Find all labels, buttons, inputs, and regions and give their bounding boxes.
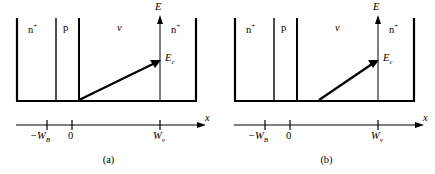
region-n-plus-right-label: n+: [389, 23, 398, 35]
region-nu-label: ν: [335, 23, 340, 34]
energy-axis-arrowhead: [375, 15, 381, 24]
region-p-label: p: [281, 23, 286, 34]
x-axis-label: x: [205, 113, 210, 124]
tick-label-minus-wb: −WB: [248, 131, 268, 144]
panel-a: n+ p ν n+ E x Ec −WB 0 Wν (a): [0, 0, 217, 174]
conduction-band-line: [319, 62, 375, 100]
region-n-plus-left-label: n+: [28, 23, 37, 35]
tick-label-w-nu: Wν: [371, 131, 383, 144]
energy-axis-label: E: [155, 2, 161, 13]
panel-b: n+ p ν n+ E x Ec −WB 0 Wν (b): [218, 0, 435, 174]
panel-b-caption: (b): [218, 155, 435, 166]
energy-axis-arrowhead: [157, 15, 163, 24]
region-p-label: p: [63, 23, 68, 34]
tick-label-zero: 0: [68, 131, 73, 142]
x-axis-label: x: [423, 113, 428, 124]
conduction-band-line: [79, 62, 157, 100]
region-n-plus-right-label: n+: [171, 23, 180, 35]
tick-label-zero: 0: [286, 131, 291, 142]
conduction-band-label: Ec: [165, 53, 175, 66]
region-n-plus-left-label: n+: [246, 23, 255, 35]
region-nu-label: ν: [117, 23, 122, 34]
tick-label-minus-wb: −WB: [30, 131, 50, 144]
tick-label-w-nu: Wν: [153, 131, 165, 144]
panel-a-caption: (a): [0, 155, 217, 166]
energy-axis-label: E: [373, 2, 379, 13]
conduction-band-label: Ec: [383, 53, 393, 66]
figure-container: n+ p ν n+ E x Ec −WB 0 Wν (a): [0, 0, 435, 174]
